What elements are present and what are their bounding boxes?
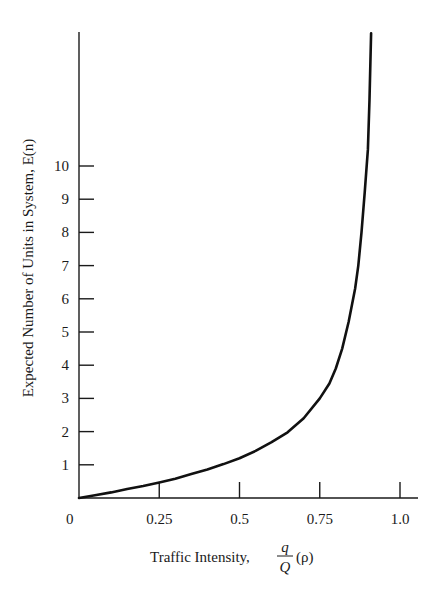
- origin-label: 0: [66, 511, 74, 527]
- x-axis-title-denominator: Q: [280, 559, 291, 575]
- x-axis-title-prefix: Traffic Intensity,: [150, 549, 250, 565]
- y-tick-label: 6: [62, 291, 70, 307]
- y-tick-label: 5: [62, 324, 70, 340]
- y-ticks: 12345678910: [54, 158, 94, 473]
- y-tick-label: 8: [62, 224, 70, 240]
- y-tick-label: 1: [62, 457, 70, 473]
- y-tick-label: 9: [62, 191, 70, 207]
- x-tick-label: 0.25: [146, 511, 172, 527]
- y-tick-label: 7: [62, 258, 70, 274]
- x-ticks: 0.250.50.751.0: [146, 482, 409, 527]
- y-tick-label: 2: [62, 424, 70, 440]
- y-axis-title: Expected Number of Units in System, E(n): [20, 139, 37, 398]
- x-tick-label: 1.0: [391, 511, 410, 527]
- x-tick-label: 0.75: [307, 511, 333, 527]
- chart: 0.250.50.751.0 12345678910 0 Traffic Int…: [0, 0, 446, 600]
- x-tick-label: 0.5: [230, 511, 249, 527]
- axes: [79, 32, 418, 498]
- y-tick-label: 10: [54, 158, 69, 174]
- x-axis-title-numerator: q: [281, 539, 289, 555]
- x-axis-title-suffix: (ρ): [296, 549, 313, 566]
- y-tick-label: 4: [62, 357, 70, 373]
- data-line: [79, 33, 371, 498]
- x-axis-title: Traffic Intensity, q Q (ρ): [150, 539, 313, 575]
- y-tick-label: 3: [62, 390, 70, 406]
